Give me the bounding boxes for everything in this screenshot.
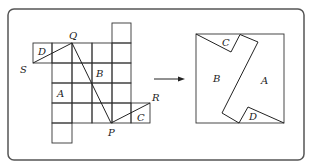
- square-cut-lower: [239, 107, 284, 123]
- grid-cell: [112, 43, 131, 63]
- square-piece-label-d: D: [248, 111, 257, 122]
- vertex-label-s: S: [20, 64, 27, 75]
- piece-label-d: D: [37, 46, 46, 57]
- grid-cell: [112, 23, 131, 43]
- grid-cell: [52, 43, 72, 63]
- grid-cell: [52, 123, 72, 143]
- grid-cell: [92, 43, 112, 63]
- grid-cell: [72, 83, 92, 103]
- grid-cell: [72, 103, 92, 123]
- square-piece-label-a: A: [260, 75, 268, 86]
- grid-cell: [112, 83, 131, 103]
- piece-label-c: C: [137, 112, 145, 123]
- vertex-label-q: Q: [69, 30, 77, 41]
- square-piece-label-c: C: [222, 37, 230, 48]
- grid-cell: [112, 103, 131, 123]
- square-piece-label-b: B: [212, 73, 220, 84]
- grid-cell: [72, 43, 92, 63]
- grid-cell: [52, 103, 72, 123]
- grid-cell: [72, 63, 92, 83]
- dissection-diagram: Q S P R D B A C C B A D: [0, 0, 311, 165]
- grid-cell: [52, 63, 72, 83]
- vertex-label-r: R: [151, 92, 160, 103]
- grid-cell: [92, 83, 112, 103]
- vertex-label-p: P: [107, 127, 115, 138]
- piece-label-a: A: [56, 88, 64, 99]
- grid-cell: [112, 63, 131, 83]
- piece-label-b: B: [95, 68, 103, 79]
- right-arrow-icon: [154, 77, 185, 82]
